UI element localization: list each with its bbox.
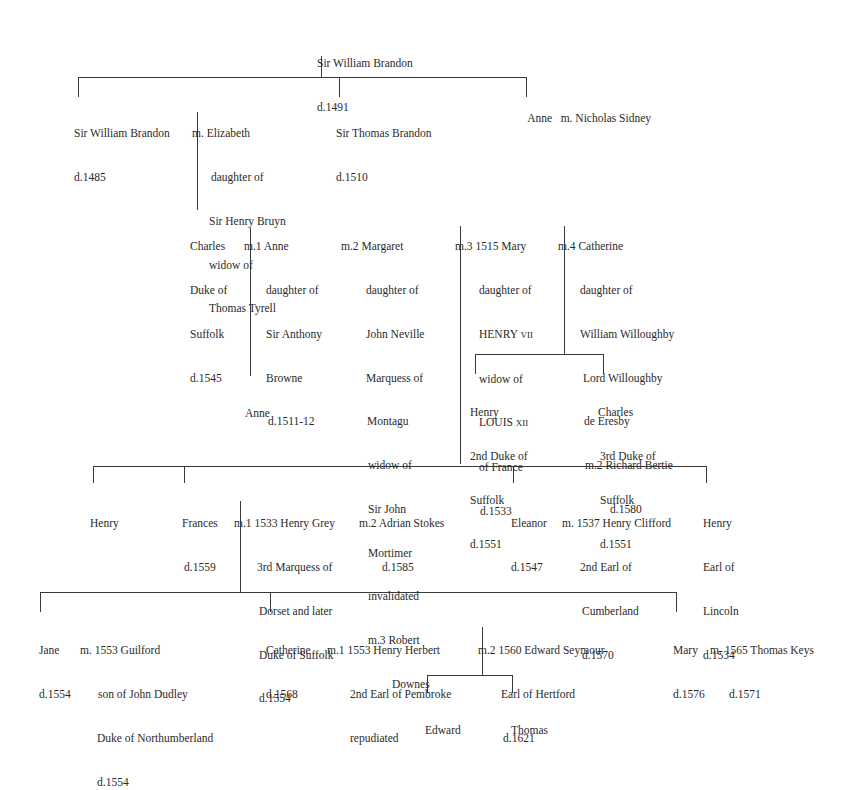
person-sir-william-brandon-jr: Sir William Brandon d.1485 — [74, 97, 170, 199]
death-date: d.1576 — [673, 687, 705, 702]
spouse-line: Duke of Northumberland — [80, 731, 213, 746]
person-name: Frances — [182, 516, 218, 531]
connector-gen2-bar — [78, 77, 527, 78]
spouse-line: 2nd Earl of — [562, 560, 671, 575]
person-name: Edward — [425, 723, 461, 738]
death-date: d.1559 — [182, 560, 218, 575]
person-thomas-seymour-son: Thomas — [511, 694, 548, 752]
spouse-thomas-keys: m. 1565 Thomas Keys d.1571 — [710, 614, 814, 716]
spouse-line: m.3 1515 Mary — [455, 239, 533, 254]
spouse-line: Sir Anthony — [244, 327, 322, 342]
connector-to-william — [78, 77, 79, 97]
connector-to-henry — [93, 466, 94, 483]
spouse-line: Montagu — [341, 414, 430, 429]
person-name: Sir William Brandon — [317, 56, 413, 71]
person-henry: Henry — [90, 487, 119, 545]
spouse-line: m. 1553 Guilford — [80, 643, 213, 658]
spouse-line: m.1 1533 Henry Grey — [234, 516, 335, 531]
death-date: d.1485 — [74, 170, 170, 185]
spouse-line: Marquess of — [341, 371, 430, 386]
spouse-line: son of John Dudley — [80, 687, 213, 702]
connector-to-anne — [526, 77, 527, 97]
person-catherine-grey: Catherine d.1568 — [266, 614, 311, 716]
spouse-line: m.1 Anne — [244, 239, 322, 254]
death-date: d.1568 — [266, 687, 311, 702]
person-title: 3rd Duke of — [598, 449, 656, 464]
person-title: Earl of — [703, 560, 739, 575]
person-title: 2nd Duke of — [470, 449, 528, 464]
person-name: Charles — [598, 405, 656, 420]
person-jane-grey: Jane d.1554 — [39, 614, 71, 716]
death-date: d.1510 — [336, 170, 432, 185]
connector-to-henry-lincoln — [706, 466, 707, 483]
person-anne: Anne m. Nicholas Sidney — [522, 96, 651, 125]
person-name: Mary — [673, 643, 705, 658]
spouse-line: m.1 1553 Henry Herbert — [327, 643, 451, 658]
person-name: Jane — [39, 643, 71, 658]
connector-to-jane — [40, 592, 41, 612]
spouse-line-part: HENRY — [479, 328, 520, 340]
connector-to-frances — [184, 466, 185, 483]
person-eleanor: Eleanor d.1547 — [511, 487, 547, 589]
spouse-line: m. 1537 Henry Clifford — [562, 516, 671, 531]
spouse-line: m.4 Catherine — [558, 239, 674, 254]
person-name: Henry — [470, 405, 528, 420]
spouse-guilford-dudley: m. 1553 Guilford son of John Dudley Duke… — [80, 614, 213, 790]
spouse-line: William Willoughby — [558, 327, 674, 342]
person-anne-daughter: Anne — [245, 377, 270, 435]
person-name: Charles — [190, 239, 227, 254]
person-name: Anne — [527, 112, 552, 124]
spouse-line: m.2 1560 Edward Seymour — [478, 643, 604, 658]
spouse-line: HENRY VII — [455, 327, 533, 343]
person-name: Catherine — [266, 643, 311, 658]
spouse-line: John Neville — [341, 327, 430, 342]
person-name: Henry — [90, 516, 119, 531]
person-mary-grey: Mary d.1576 — [673, 614, 705, 716]
person-name: Eleanor — [511, 516, 547, 531]
death-date: d.1554 — [80, 775, 213, 790]
spouse-line: m. Nicholas Sidney — [561, 112, 651, 124]
person-title: Duke of — [190, 283, 227, 298]
spouse-line: invalidated — [341, 589, 430, 604]
regnal-number: VII — [520, 330, 533, 340]
spouse-line: daughter of — [341, 283, 430, 298]
spouse-line: daughter of — [455, 283, 533, 298]
death-date: d.1545 — [190, 371, 227, 386]
spouse-line: daughter of — [558, 283, 674, 298]
death-date: d.1585 — [359, 560, 444, 575]
spouse-adrian-stokes: m.2 Adrian Stokes d.1585 — [359, 487, 444, 589]
spouse-line: 3rd Marquess of — [234, 560, 335, 575]
spouse-line: m.2 Margaret — [341, 239, 430, 254]
person-name: Thomas — [511, 723, 548, 738]
person-name: Henry — [703, 516, 739, 531]
person-sir-thomas-brandon: Sir Thomas Brandon d.1510 — [336, 97, 432, 199]
person-name: Anne — [245, 406, 270, 421]
spouse-line: m. 1565 Thomas Keys — [710, 643, 814, 658]
death-date: d.1571 — [710, 687, 814, 702]
person-name: Sir William Brandon — [74, 126, 170, 141]
person-edward-seymour-son: Edward — [425, 694, 461, 752]
person-charles-duke-of-suffolk: Charles Duke of Suffolk d.1545 — [190, 210, 227, 400]
death-date: d.1547 — [511, 560, 547, 575]
connector-to-mary — [676, 592, 677, 612]
spouse-line: daughter of — [244, 283, 322, 298]
death-date: d.1554 — [39, 687, 71, 702]
spouse-line: daughter of — [192, 170, 286, 185]
person-title: Suffolk — [190, 327, 227, 342]
spouse-line: m. Elizabeth — [192, 126, 286, 141]
person-frances: Frances d.1559 — [182, 487, 218, 589]
person-name: Sir Thomas Brandon — [336, 126, 432, 141]
spouse-line: widow of — [341, 458, 430, 473]
spouse-line: m.2 Adrian Stokes — [359, 516, 444, 531]
